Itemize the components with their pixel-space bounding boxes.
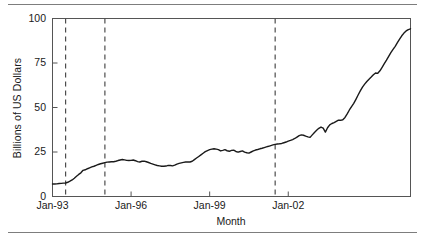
y-tick-label: 25 [12,145,46,157]
data-series-line [53,29,411,184]
x-axis-label: Month [52,215,410,227]
tick-marks-group [53,19,289,197]
reference-lines-group [66,19,276,197]
x-tick-label: Jan-93 [18,199,88,211]
y-tick-label: 75 [12,56,46,68]
chart-figure: Billions of US Dollars Month 0255075100 … [0,0,425,240]
plot-border [53,19,411,197]
y-tick-label: 50 [12,101,46,113]
x-tick-label: Jan-99 [175,199,245,211]
plot-frame [53,19,411,197]
y-tick-label: 100 [12,12,46,24]
x-tick-label: Jan-02 [253,199,323,211]
x-tick-label: Jan-96 [96,199,166,211]
